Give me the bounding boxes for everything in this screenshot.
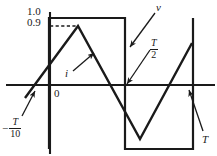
- negative-tenth-period-fraction: − T 10: [2, 117, 21, 139]
- half-period-numerator: T: [150, 38, 158, 50]
- annotation-arrow-t-half: [127, 50, 150, 84]
- minus-sign: −: [2, 123, 8, 134]
- annotation-arrow-t: [189, 90, 203, 131]
- negative-tenth-denominator: 10: [9, 129, 21, 140]
- voltage-curve-label: v: [156, 2, 161, 13]
- half-period-label: T 2: [150, 33, 158, 60]
- waveform-figure: 1.0 0.9 0 v i T 2 − T 10 T: [0, 0, 217, 156]
- half-period-denominator: 2: [150, 50, 158, 61]
- negative-tenth-period-label: − T 10: [2, 117, 21, 139]
- period-label: T: [202, 134, 208, 145]
- annotation-arrow-i: [73, 53, 94, 71]
- origin-label: 0: [54, 88, 60, 99]
- half-period-fraction: T 2: [150, 38, 158, 60]
- current-curve-label: i: [65, 68, 68, 79]
- negative-tenth-numerator: T: [9, 117, 21, 129]
- y-tick-label-0-9: 0.9: [27, 17, 41, 28]
